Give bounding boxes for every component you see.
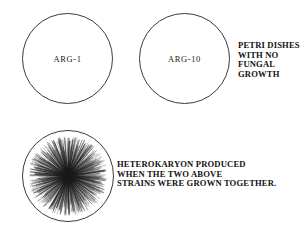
heterokaryon-figure: ARG-1 ARG-10 PETRI DISHES WITH NO FUNGAL… xyxy=(0,0,304,237)
caption-no-growth-line-4: GROWTH xyxy=(238,70,300,80)
caption-heterokaryon-line-3: STRAINS WERE GROWN TOGETHER. xyxy=(117,179,276,189)
petri-dish-arg-10: ARG-10 xyxy=(139,13,230,104)
caption-heterokaryon: HETEROKARYON PRODUCED WHEN THE TWO ABOVE… xyxy=(117,160,276,189)
petri-dish-label-arg-1: ARG-1 xyxy=(23,54,112,64)
caption-no-fungal-growth: PETRI DISHES WITH NO FUNGAL GROWTH xyxy=(238,41,300,79)
petri-dish-arg-1: ARG-1 xyxy=(22,13,113,104)
petri-dish-heterokaryon xyxy=(22,130,114,222)
petri-dish-label-arg-10: ARG-10 xyxy=(140,54,229,64)
